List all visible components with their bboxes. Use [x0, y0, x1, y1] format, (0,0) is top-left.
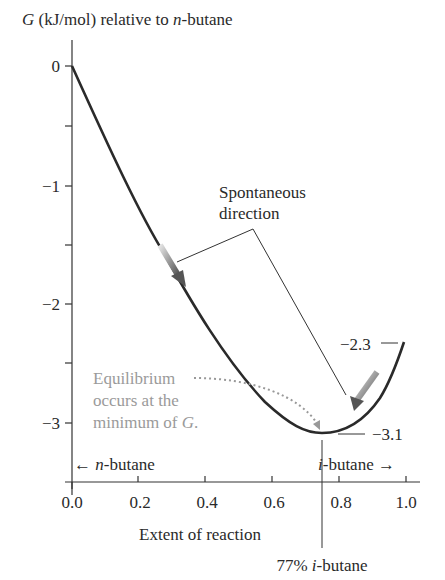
value-label-min: −3.1	[372, 425, 403, 444]
spontaneous-label-line2: direction	[219, 204, 280, 223]
y-tick-0: 0	[52, 57, 61, 76]
svg-text:Equilibrium: Equilibrium	[93, 369, 175, 388]
i-butane-label: i-butane →	[318, 455, 395, 474]
x-axis-title: Extent of reaction	[139, 525, 261, 544]
x-tick-5: 1.0	[395, 493, 416, 512]
y-tick-2: −2	[42, 295, 60, 314]
spontaneous-pointer-lines	[177, 229, 346, 395]
svg-text:occurs at the: occurs at the	[93, 391, 179, 410]
x-tick-labels: 0.0 0.2 0.4 0.6 0.8 1.0	[61, 493, 416, 512]
x-tick-1: 0.2	[129, 493, 150, 512]
y-tick-labels: 0 −1 −2 −3	[42, 57, 60, 433]
spontaneous-arrow-right	[350, 372, 377, 411]
x-tick-4: 0.8	[330, 493, 351, 512]
y-ticks	[65, 66, 72, 423]
equilibrium-arrowhead-icon	[313, 420, 320, 430]
svg-text:minimum of G.: minimum of G.	[93, 413, 198, 432]
value-label-end: −2.3	[340, 335, 371, 354]
equilibrium-dotted-pointer	[194, 378, 318, 425]
x-tick-2: 0.4	[196, 493, 218, 512]
y-tick-3: −3	[42, 414, 60, 433]
y-tick-1: −1	[42, 177, 60, 196]
spontaneous-arrow-left	[160, 245, 186, 287]
x-tick-3: 0.6	[263, 493, 284, 512]
spontaneous-label-line1: Spontaneous	[219, 183, 306, 202]
equilibrium-percent-label: 77% i-butane	[276, 556, 367, 575]
gibbs-energy-chart: G (kJ/mol) relative to n-butane 0 −1 −2 …	[0, 0, 445, 580]
n-butane-label: ← n-butane	[74, 455, 155, 474]
y-axis-title: G (kJ/mol) relative to n-butane	[22, 10, 233, 29]
equilibrium-annotation: Equilibrium occurs at the minimum of G.	[93, 369, 198, 432]
x-tick-0: 0.0	[61, 493, 82, 512]
